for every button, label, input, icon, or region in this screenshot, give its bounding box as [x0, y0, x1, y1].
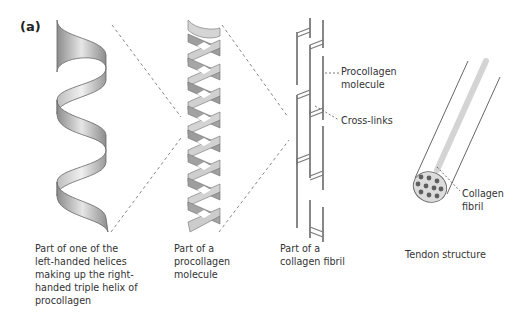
zoom-connector-line [111, 138, 181, 232]
zoom-connector-line [222, 25, 288, 117]
callout-cross-links: Cross-links [341, 115, 393, 128]
callout-collagen-fibril: Collagen fibril [462, 188, 504, 213]
zoom-connector-line [112, 25, 181, 117]
triple-helix-molecule [188, 20, 220, 232]
zoom-connector-line [219, 140, 289, 232]
caption-collagen-fibril: Part of a collagen fibril [280, 242, 345, 268]
caption-single-helix: Part of one of the left-handed helices m… [35, 242, 138, 307]
single-helix-ribbon [57, 20, 108, 232]
callout-procollagen-molecule: Procollagen molecule [341, 66, 397, 91]
caption-procollagen-molecule: Part of a procollagen molecule [174, 242, 230, 281]
caption-tendon: Tendon structure [405, 248, 486, 261]
collagen-fibril-schematic [297, 18, 323, 242]
tendon-cylinder [408, 60, 500, 208]
